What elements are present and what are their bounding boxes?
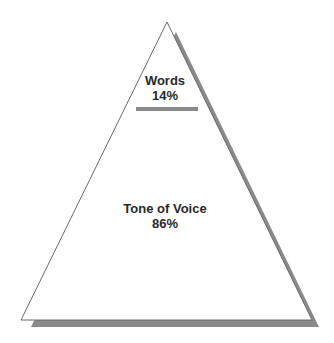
section-top-percent: 14%	[152, 88, 178, 103]
section-bottom-percent: 86%	[152, 216, 178, 231]
pyramid-triangle	[21, 22, 312, 320]
section-bottom-name: Tone of Voice	[123, 201, 206, 216]
section-divider	[136, 107, 198, 111]
pyramid-diagram: Words 14% Tone of Voice 86%	[0, 0, 334, 343]
section-top-name: Words	[145, 73, 185, 88]
